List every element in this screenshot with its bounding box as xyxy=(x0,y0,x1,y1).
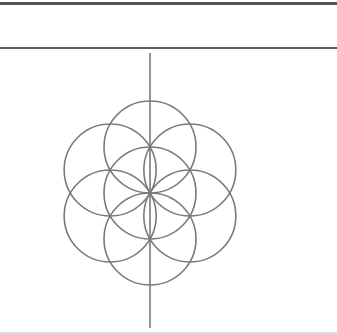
seed-of-life-diagram xyxy=(0,0,337,334)
